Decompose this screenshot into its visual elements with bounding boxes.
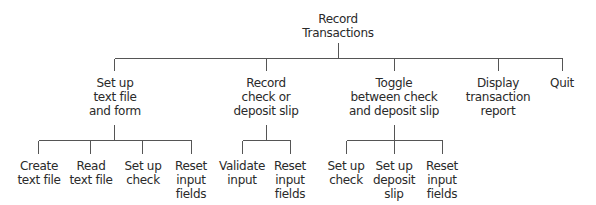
node-label-line: Set up: [373, 159, 415, 173]
node-label-line: between check: [349, 90, 439, 104]
node-label-line: deposit slip: [233, 104, 298, 118]
node-label-line: check: [328, 173, 365, 187]
node-label-line: Record: [302, 12, 373, 26]
node-label-line: Set up: [328, 159, 365, 173]
node-label-line: fields: [274, 187, 306, 201]
node-record-transactions: Record Transactions: [302, 12, 373, 40]
node-label-line: transaction: [466, 90, 531, 104]
node-label-line: Toggle: [349, 76, 439, 90]
node-set-up-check-2: Set up check: [328, 159, 365, 187]
node-reset-input-fields-1: Reset input fields: [175, 159, 207, 201]
node-label-line: Read: [69, 159, 112, 173]
node-label-line: Record: [233, 76, 298, 90]
node-label-line: input: [274, 173, 306, 187]
node-read-text-file: Read text file: [69, 159, 112, 187]
node-label-line: input: [175, 173, 207, 187]
node-label-line: Set up: [89, 76, 141, 90]
node-label-line: fields: [175, 187, 207, 201]
node-record-check-or-deposit-slip: Record check or deposit slip: [233, 76, 298, 118]
node-label-line: check: [125, 173, 162, 187]
node-label-line: text file: [69, 173, 112, 187]
node-reset-input-fields-2: Reset input fields: [274, 159, 306, 201]
node-label-line: Set up: [125, 159, 162, 173]
node-label-line: fields: [426, 187, 458, 201]
node-label-line: input: [219, 173, 265, 187]
node-label-line: Create: [17, 159, 60, 173]
node-toggle-check-deposit: Toggle between check and deposit slip: [349, 76, 439, 118]
node-set-up-check-1: Set up check: [125, 159, 162, 187]
node-set-up-deposit-slip: Set up deposit slip: [373, 159, 415, 201]
node-label-line: slip: [373, 187, 415, 201]
node-label-line: Reset: [274, 159, 306, 173]
node-label-line: text file: [17, 173, 60, 187]
node-label-line: and form: [89, 104, 141, 118]
node-label-line: report: [466, 104, 531, 118]
node-label-line: Display: [466, 76, 531, 90]
node-label-line: check or: [233, 90, 298, 104]
node-label-line: input: [426, 173, 458, 187]
node-label-line: Quit: [550, 76, 574, 90]
node-label-line: and deposit slip: [349, 104, 439, 118]
node-label-line: deposit: [373, 173, 415, 187]
node-label-line: text file: [89, 90, 141, 104]
node-display-transaction-report: Display transaction report: [466, 76, 531, 118]
node-label-line: Reset: [426, 159, 458, 173]
hierarchy-diagram: Record Transactions Set up text file and…: [0, 0, 596, 205]
node-quit: Quit: [550, 76, 574, 90]
node-label-line: Transactions: [302, 26, 373, 40]
node-create-text-file: Create text file: [17, 159, 60, 187]
node-label-line: Reset: [175, 159, 207, 173]
node-label-line: Validate: [219, 159, 265, 173]
node-reset-input-fields-3: Reset input fields: [426, 159, 458, 201]
node-set-up-text-file-and-form: Set up text file and form: [89, 76, 141, 118]
node-validate-input: Validate input: [219, 159, 265, 187]
